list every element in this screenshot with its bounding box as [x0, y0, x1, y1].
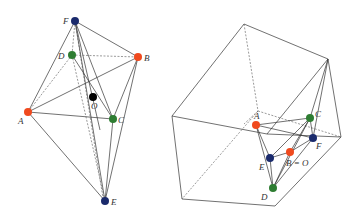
point-O — [89, 93, 97, 101]
label-F: F — [62, 16, 69, 26]
point-A — [24, 108, 32, 116]
left-figure: F D B O A C E — [17, 16, 150, 207]
label-B: B — [144, 53, 150, 63]
point-D — [269, 184, 277, 192]
label-E: E — [258, 162, 265, 172]
label-B-equals-O: B = O — [286, 158, 309, 168]
label-A: A — [253, 111, 260, 121]
label-D: D — [57, 51, 65, 61]
label-C: C — [315, 109, 322, 119]
right-figure: A C F B = O E D — [172, 24, 341, 206]
point-D — [68, 51, 76, 59]
label-D: D — [260, 192, 268, 202]
label-E: E — [110, 197, 117, 207]
label-O: O — [91, 101, 98, 111]
point-B — [134, 53, 142, 61]
label-A: A — [17, 116, 24, 126]
diagram-canvas: F D B O A C E — [0, 0, 360, 216]
point-E — [266, 154, 274, 162]
point-C — [306, 114, 314, 122]
point-E — [101, 197, 109, 205]
point-C — [109, 115, 117, 123]
point-B — [286, 148, 294, 156]
point-F — [71, 17, 79, 25]
label-C: C — [118, 115, 125, 125]
label-F: F — [315, 141, 322, 151]
point-A — [252, 121, 260, 129]
